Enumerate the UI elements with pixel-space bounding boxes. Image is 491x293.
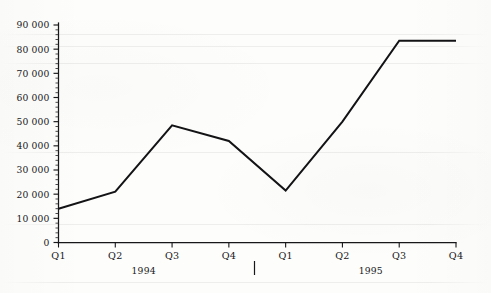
x-tick-label: Q3: [165, 250, 179, 261]
y-axis-tick-labels: 010 00020 00030 00040 00050 00060 00070 …: [16, 19, 49, 248]
x-axis-year-label: 1994: [132, 265, 156, 276]
y-tick-label: 30 000: [16, 164, 49, 175]
y-tick-label: 40 000: [16, 140, 49, 151]
y-tick-label: 20 000: [16, 189, 49, 200]
x-tick-label: Q1: [278, 250, 292, 261]
y-tick-label: 70 000: [16, 68, 49, 79]
x-tick-label: Q4: [222, 250, 236, 261]
x-axis-year-label: 1995: [359, 265, 383, 276]
y-axis: 010 00020 00030 00040 00050 00060 00070 …: [16, 19, 58, 248]
y-tick-label: 0: [44, 237, 50, 248]
y-tick-label: 90 000: [16, 19, 49, 30]
y-tick-label: 60 000: [16, 92, 49, 103]
chart-canvas: 010 00020 00030 00040 00050 00060 00070 …: [0, 0, 491, 293]
data-series-line: [59, 41, 457, 209]
x-tick-label: Q4: [449, 250, 463, 261]
x-axis-tick-labels: Q1Q2Q3Q4Q1Q2Q3Q4: [51, 250, 463, 261]
y-tick-label: 80 000: [16, 44, 49, 55]
y-tick-label: 50 000: [16, 116, 49, 127]
x-tick-label: Q1: [51, 250, 65, 261]
x-axis-ticks: [59, 243, 457, 248]
x-tick-label: Q2: [108, 250, 122, 261]
y-axis-ticks: [54, 25, 59, 243]
x-tick-label: Q2: [335, 250, 349, 261]
y-tick-label: 10 000: [16, 213, 49, 224]
line-chart: 010 00020 00030 00040 00050 00060 00070 …: [0, 0, 491, 293]
data-series-group: [59, 41, 457, 209]
x-axis-group-labels: 19941995: [132, 265, 383, 276]
x-axis: Q1Q2Q3Q4Q1Q2Q3Q4 19941995: [51, 243, 463, 276]
x-tick-label: Q3: [392, 250, 406, 261]
